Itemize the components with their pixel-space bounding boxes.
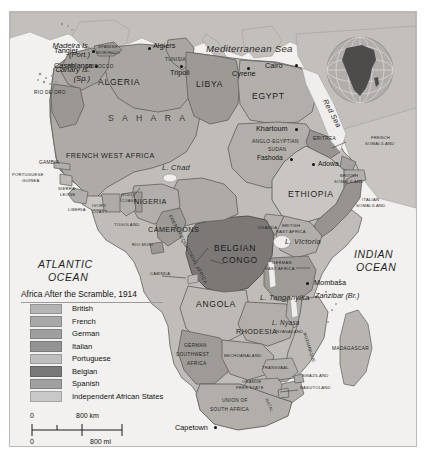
scale-zero-bottom: 0 [30, 438, 34, 445]
legend-label: Spanish [72, 379, 99, 388]
legend-swatch [30, 304, 62, 315]
legend-swatch [30, 341, 62, 352]
scale-label-km: 800 km [76, 412, 99, 419]
scale-zero-top: 0 [30, 412, 34, 419]
scale-ticks [30, 423, 150, 437]
city-dot-adowa [312, 163, 315, 166]
legend-row: Independent African States [21, 390, 173, 403]
legend-swatch [30, 316, 62, 327]
map-frame: Madeira Is. (Port.) Canary Is. (Sp.) Tan… [9, 11, 417, 447]
legend-label: Portuguese [72, 354, 111, 363]
legend-row: British [21, 303, 173, 316]
legend-swatch [30, 366, 62, 377]
city-dot-fashoda [290, 158, 293, 161]
legend-label: French [72, 317, 96, 326]
legend-row: Spanish [21, 378, 173, 391]
legend-label: British [72, 304, 93, 313]
legend-label: German [72, 329, 99, 338]
legend-swatch [30, 329, 62, 340]
map-figure: Madeira Is. (Port.) Canary Is. (Sp.) Tan… [0, 0, 426, 458]
legend-swatch [30, 379, 62, 390]
legend-swatch [30, 391, 62, 402]
legend-rows: BritishFrenchGermanItalianPortugueseBelg… [21, 303, 173, 403]
legend-swatch [30, 354, 62, 365]
legend-row: Belgian [21, 365, 173, 378]
map-legend: Africa After the Scramble, 1914 BritishF… [21, 289, 173, 403]
legend-row: Portuguese [21, 353, 173, 366]
scale-label-mi: 800 mi [90, 438, 111, 445]
legend-title: Africa After the Scramble, 1914 [21, 289, 163, 303]
legend-label: Belgian [72, 367, 97, 376]
legend-label: Independent African States [72, 392, 163, 401]
legend-row: German [21, 328, 173, 341]
legend-row: French [21, 315, 173, 328]
legend-label: Italian [72, 342, 92, 351]
legend-row: Italian [21, 340, 173, 353]
